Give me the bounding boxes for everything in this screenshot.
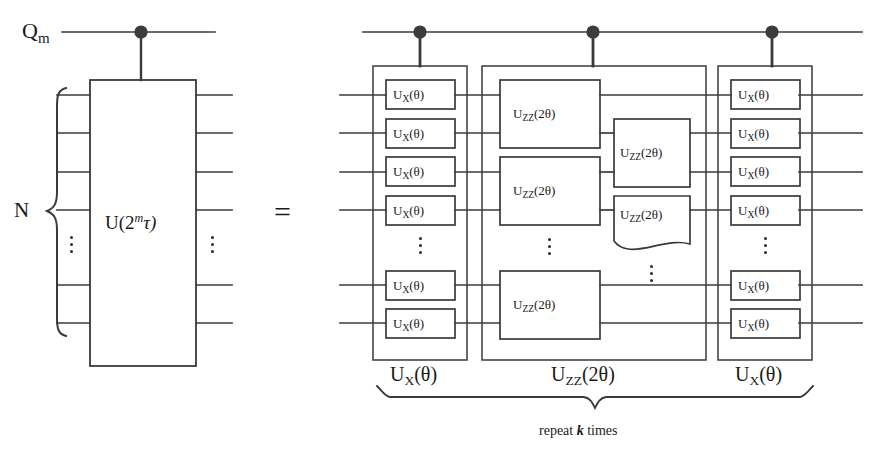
equality-symbol: = <box>274 197 291 227</box>
t: U <box>620 145 629 160</box>
repeat-note-suffix: times <box>584 423 618 438</box>
gate-label-uzz-a-3: UZZ(2θ) <box>513 298 555 314</box>
t: (θ) <box>409 316 424 331</box>
t: U <box>393 164 402 179</box>
t: (θ) <box>754 164 769 179</box>
ancilla-label-sub: m <box>38 30 50 46</box>
vdots-left-in <box>70 236 73 257</box>
gate-label-ux-r-2: UX(θ) <box>738 127 769 143</box>
figure-canvas: Qm N U(2mτ) = UX(θ) UX(θ) UX(θ) UX(θ) <box>0 0 872 468</box>
ancilla-label: Qm <box>22 20 50 46</box>
t: X <box>749 373 759 388</box>
t: (θ) <box>409 278 424 293</box>
t: (θ) <box>409 87 424 102</box>
gate-label-uzz-a-1: UZZ(2θ) <box>513 107 555 123</box>
gate-label-ux-l-5: UX(θ) <box>393 279 424 295</box>
gate-label-ux-r-3: UX(θ) <box>738 165 769 181</box>
gate-label-ux-l-2: UX(θ) <box>393 127 424 143</box>
t: U <box>393 87 402 102</box>
t: U <box>393 203 402 218</box>
circuit-vector-layer <box>0 0 872 468</box>
t: ZZ <box>522 304 534 314</box>
t: (θ) <box>759 363 782 385</box>
group-label-uzz: UZZ(2θ) <box>551 364 615 388</box>
register-brace <box>47 88 66 336</box>
control-dot-ux-right <box>765 25 778 38</box>
t: ZZ <box>565 373 582 388</box>
t: U <box>551 363 565 385</box>
t: (2θ) <box>582 363 615 385</box>
u-block-label-sup: m <box>135 211 144 225</box>
t: X <box>404 373 414 388</box>
group-label-ux-right: UX(θ) <box>735 364 782 388</box>
t: U <box>513 297 522 312</box>
gate-label-ux-r-1: UX(θ) <box>738 88 769 104</box>
gate-label-ux-r-4: UX(θ) <box>738 204 769 220</box>
gate-label-ux-l-3: UX(θ) <box>393 165 424 181</box>
vdots-uzz-a <box>548 238 551 259</box>
t: ZZ <box>629 214 641 224</box>
t: ZZ <box>629 152 641 162</box>
register-brace-label: N <box>14 200 29 221</box>
t: (θ) <box>754 203 769 218</box>
t: (2θ) <box>641 145 662 160</box>
t: (θ) <box>409 126 424 141</box>
repeat-note: repeat k times <box>539 424 618 438</box>
t: U <box>513 183 522 198</box>
gate-label-uzz-b-1: UZZ(2θ) <box>620 146 662 162</box>
t: U <box>738 87 747 102</box>
vdots-uzz-b <box>650 265 653 286</box>
u-block-label: U(2mτ) <box>105 212 156 232</box>
t: (2θ) <box>534 183 555 198</box>
t: (θ) <box>754 126 769 141</box>
t: U <box>735 363 749 385</box>
t: U <box>738 278 747 293</box>
ancilla-label-base: Q <box>22 18 38 43</box>
t: (θ) <box>409 164 424 179</box>
control-dot-uzz <box>586 25 599 38</box>
t: (θ) <box>414 363 437 385</box>
t: (θ) <box>409 203 424 218</box>
t: U <box>738 316 747 331</box>
vdots-left-out <box>211 236 214 257</box>
t: (2θ) <box>534 106 555 121</box>
t: U <box>393 126 402 141</box>
gate-label-ux-l-6: UX(θ) <box>393 317 424 333</box>
u-block-label-base: U(2 <box>105 212 135 233</box>
t: U <box>738 126 747 141</box>
t: (θ) <box>754 87 769 102</box>
gate-label-ux-l-4: UX(θ) <box>393 204 424 220</box>
vdots-ux-right <box>764 237 767 258</box>
t: U <box>390 363 404 385</box>
t: U <box>620 207 629 222</box>
t: ZZ <box>522 190 534 200</box>
gate-label-ux-l-1: UX(θ) <box>393 88 424 104</box>
t: U <box>513 106 522 121</box>
repeat-brace <box>377 386 813 408</box>
vdots-ux-left <box>419 237 422 258</box>
repeat-note-prefix: repeat <box>539 423 577 438</box>
gate-label-uzz-a-2: UZZ(2θ) <box>513 184 555 200</box>
t: U <box>393 278 402 293</box>
repeat-note-count: k <box>577 423 584 438</box>
t: U <box>393 316 402 331</box>
group-label-ux-left: UX(θ) <box>390 364 437 388</box>
gate-label-ux-r-5: UX(θ) <box>738 279 769 295</box>
t: ZZ <box>522 113 534 123</box>
t: (2θ) <box>534 297 555 312</box>
t: (2θ) <box>641 207 662 222</box>
t: U <box>738 203 747 218</box>
t: U <box>738 164 747 179</box>
t: (θ) <box>754 316 769 331</box>
t: (θ) <box>754 278 769 293</box>
control-dot-ux-left <box>413 25 426 38</box>
gate-label-ux-r-6: UX(θ) <box>738 317 769 333</box>
u-block-label-tail: τ) <box>143 212 156 233</box>
gate-label-uzz-b-2: UZZ(2θ) <box>620 208 662 224</box>
control-dot-left <box>134 25 147 38</box>
